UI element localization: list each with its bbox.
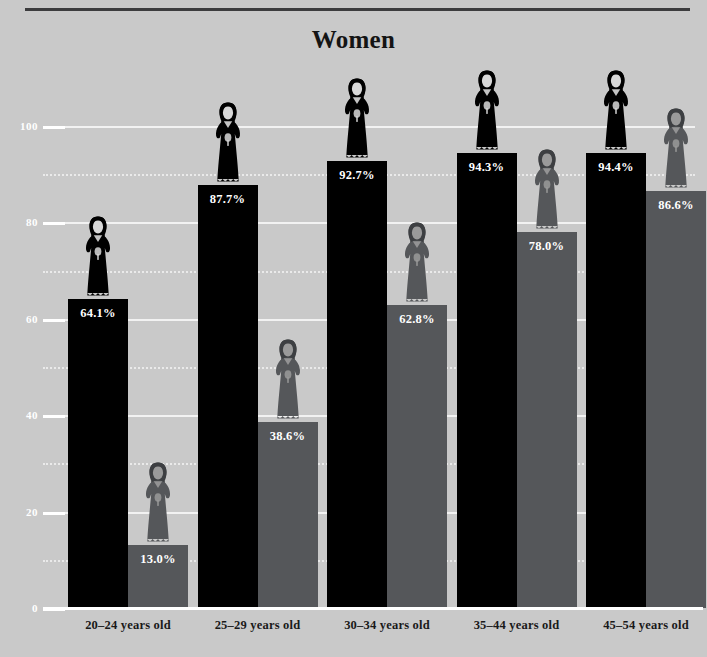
woman-figure-icon [81, 214, 115, 299]
woman-figure-icon [530, 147, 564, 232]
woman-figure-icon [141, 460, 175, 545]
bar-value-label: 64.1% [68, 306, 128, 321]
woman-figure-icon [271, 337, 305, 422]
bar-primary-3[interactable]: 94.3% [457, 153, 517, 608]
x-axis-line [43, 607, 703, 610]
bar-primary-4[interactable]: 94.4% [586, 153, 646, 608]
chart-plot-area: 020406080100 64.1% 13.0% [0, 0, 707, 657]
bar-value-label: 94.4% [586, 160, 646, 175]
bar-value-label: 94.3% [457, 160, 517, 175]
bar-value-label: 62.8% [387, 312, 447, 327]
bar-value-label: 92.7% [327, 168, 387, 183]
bar-primary-1[interactable]: 87.7% [198, 185, 258, 608]
woman-figure-icon [81, 214, 115, 299]
y-axis-tick-mark [43, 415, 65, 418]
y-axis-tick-label: 0 [8, 602, 38, 614]
x-axis-tick-label: 20–24 years old [58, 618, 198, 633]
woman-figure-icon [340, 76, 374, 161]
woman-figure-icon [599, 68, 633, 153]
woman-figure-icon [530, 147, 564, 232]
woman-figure-icon [470, 68, 504, 153]
y-axis-tick-mark [43, 512, 65, 515]
bar-secondary-4[interactable]: 86.6% [646, 191, 706, 608]
bar-primary-2[interactable]: 92.7% [327, 161, 387, 608]
y-axis-tick-mark [43, 126, 65, 129]
woman-figure-icon [599, 68, 633, 153]
woman-figure-icon [400, 220, 434, 305]
bar-value-label: 78.0% [517, 239, 577, 254]
bar-secondary-3[interactable]: 78.0% [517, 232, 577, 608]
bar-value-label: 13.0% [128, 552, 188, 567]
x-axis-tick-label: 35–44 years old [447, 618, 587, 633]
woman-figure-icon [400, 220, 434, 305]
y-axis-tick-label: 80 [8, 216, 38, 228]
bar-value-label: 38.6% [258, 429, 318, 444]
bar-secondary-0[interactable]: 13.0% [128, 545, 188, 608]
woman-figure-icon [340, 76, 374, 161]
y-axis-tick-label: 60 [8, 313, 38, 325]
woman-figure-icon [271, 337, 305, 422]
y-axis-tick-label: 100 [8, 120, 38, 132]
bar-secondary-1[interactable]: 38.6% [258, 422, 318, 608]
woman-figure-icon [659, 106, 693, 191]
y-axis-tick-label: 20 [8, 506, 38, 518]
y-axis-tick-mark [43, 319, 65, 322]
x-axis-tick-label: 45–54 years old [576, 618, 707, 633]
woman-figure-icon [211, 100, 245, 185]
bar-secondary-2[interactable]: 62.8% [387, 305, 447, 608]
bar-value-label: 86.6% [646, 198, 706, 213]
y-axis-tick-label: 40 [8, 409, 38, 421]
bar-value-label: 87.7% [198, 192, 258, 207]
woman-figure-icon [141, 460, 175, 545]
y-axis-tick-mark [43, 222, 65, 225]
woman-figure-icon [470, 68, 504, 153]
woman-figure-icon [659, 106, 693, 191]
bar-primary-0[interactable]: 64.1% [68, 299, 128, 608]
woman-figure-icon [211, 100, 245, 185]
x-axis-tick-label: 25–29 years old [188, 618, 328, 633]
x-axis-tick-label: 30–34 years old [317, 618, 457, 633]
